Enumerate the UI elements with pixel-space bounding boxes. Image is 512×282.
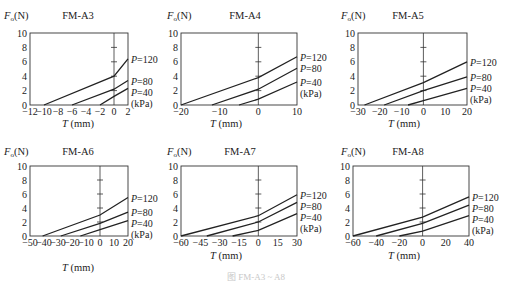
chart-panel-fm-a3: 0246810−12−10−8−6−4−202P=120P=80P=40(kPa… (3, 10, 158, 130)
legend-label: P=120 (299, 190, 327, 201)
y-axis-label: Fo(N) (166, 146, 192, 159)
figure-canvas: 0246810−12−10−8−6−4−202P=120P=80P=40(kPa… (0, 0, 512, 282)
y-tick-label: 6 (173, 189, 178, 200)
legend-label: P=120 (299, 52, 327, 63)
legend-label: P=40 (469, 83, 492, 94)
y-axis-label: Fo(N) (166, 10, 192, 23)
legend-label: P=80 (299, 201, 322, 212)
y-tick-label: 4 (173, 71, 178, 82)
y-tick-label: 2 (345, 217, 350, 228)
legend-unit: (kPa) (470, 94, 492, 106)
series-line-p-120 (44, 59, 128, 105)
x-tick-label: 30 (292, 237, 302, 248)
series-line-p-120 (181, 195, 297, 236)
y-tick-label: 10 (340, 161, 350, 172)
x-tick-label: −2 (95, 106, 106, 117)
y-tick-label: 2 (22, 217, 27, 228)
y-tick-label: 8 (173, 175, 178, 186)
y-tick-label: 10 (17, 161, 27, 172)
chart-title: FM-A6 (62, 146, 94, 157)
x-tick-label: 40 (464, 237, 474, 248)
x-tick-label: 0 (112, 106, 117, 117)
x-tick-label: 10 (292, 106, 302, 117)
x-tick-label: −30 (350, 106, 366, 117)
legend-label: P=120 (469, 57, 497, 68)
chart-title: FM-A3 (62, 10, 94, 21)
x-tick-label: −8 (53, 106, 64, 117)
legend-label: P=40 (299, 77, 322, 88)
series-line-p-120 (181, 57, 297, 105)
y-tick-label: 10 (168, 161, 178, 172)
x-tick-label: 0 (256, 237, 261, 248)
x-tick-label: 0 (98, 237, 103, 248)
y-tick-label: 4 (173, 203, 178, 214)
legend-label: P=40 (299, 212, 322, 223)
y-tick-label: 10 (17, 28, 27, 39)
legend-unit: (kPa) (472, 225, 494, 237)
y-tick-label: 6 (22, 189, 27, 200)
y-tick-label: 2 (350, 85, 355, 96)
chart-panel-fm-a5: 0246810−30−20−1001020P=120P=80P=40(kPa)F… (340, 10, 497, 130)
x-tick-label: 20 (462, 106, 472, 117)
y-tick-label: 8 (22, 42, 27, 53)
plot-frame (30, 33, 128, 105)
legend-label: P=40 (471, 214, 494, 225)
legend-label: P=120 (130, 54, 158, 65)
chart-panel-fm-a6: 0246810−50−40−30−20−1001020P=120P=80P=40… (3, 146, 158, 274)
series-line-p-80 (212, 68, 297, 105)
series-line-p-40 (80, 221, 128, 236)
y-tick-label: 6 (345, 189, 350, 200)
chart-title: FM-A8 (392, 146, 424, 157)
legend-unit: (kPa) (131, 98, 153, 110)
x-tick-label: −4 (81, 106, 92, 117)
x-tick-label: 15 (273, 237, 283, 248)
figure-caption: 图 FM-A3 ~ A8 (0, 270, 512, 282)
x-tick-label: −20 (173, 106, 189, 117)
chart-panel-fm-a8: 0246810−60−40−2002040P=120P=80P=40(kPa)F… (340, 146, 499, 262)
x-tick-label: −20 (392, 237, 408, 248)
x-axis-label: T (mm) (388, 250, 420, 262)
legend-label: P=120 (130, 193, 158, 204)
series-line-p-120 (353, 197, 469, 236)
legend-label: P=80 (299, 63, 322, 74)
y-tick-label: 2 (173, 217, 178, 228)
plot-frame (181, 33, 297, 105)
x-tick-label: 10 (109, 237, 119, 248)
y-tick-label: 6 (173, 56, 178, 67)
y-tick-label: 10 (345, 28, 355, 39)
x-tick-label: −6 (67, 106, 78, 117)
x-tick-label: 10 (440, 106, 450, 117)
y-tick-label: 4 (345, 203, 350, 214)
x-axis-label: T (mm) (388, 118, 420, 130)
x-tick-label: −60 (345, 237, 361, 248)
x-tick-label: 2 (126, 106, 131, 117)
plot-frame (353, 166, 469, 236)
y-tick-label: 2 (173, 85, 178, 96)
x-tick-label: −10 (394, 106, 410, 117)
x-tick-label: −40 (368, 237, 384, 248)
legend-label: P=40 (130, 218, 153, 229)
x-tick-label: −20 (372, 106, 388, 117)
legend-unit: (kPa) (300, 223, 322, 235)
legend-label: P=80 (469, 72, 492, 83)
y-tick-label: 4 (22, 203, 27, 214)
y-tick-label: 2 (22, 85, 27, 96)
x-tick-label: −30 (212, 237, 228, 248)
y-tick-label: 6 (22, 56, 27, 67)
legend-label: P=80 (130, 76, 153, 87)
series-line-p-40 (408, 88, 467, 105)
legend-label: P=40 (130, 87, 153, 98)
series-line-p-40 (239, 82, 297, 105)
legend-unit: (kPa) (131, 229, 153, 241)
series-line-p-40 (233, 214, 297, 236)
legend-label: P=80 (130, 207, 153, 218)
chart-title: FM-A7 (224, 146, 256, 157)
x-tick-label: 0 (420, 237, 425, 248)
x-axis-label: T (mm) (210, 118, 242, 130)
y-tick-label: 8 (350, 42, 355, 53)
x-tick-label: 0 (421, 106, 426, 117)
legend-unit: (kPa) (300, 88, 322, 100)
y-tick-label: 10 (168, 28, 178, 39)
x-axis-label: T (mm) (210, 250, 242, 262)
y-tick-label: 4 (350, 71, 355, 82)
